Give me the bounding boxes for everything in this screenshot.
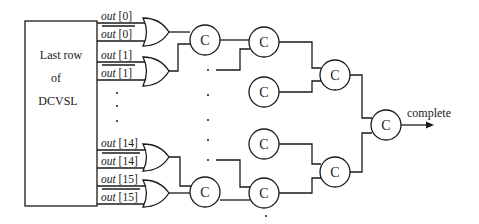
svg-text:C: C <box>200 185 209 200</box>
level3-wires <box>279 42 321 193</box>
block-label-line-2: of <box>51 71 61 85</box>
or-gate-1 <box>143 57 169 86</box>
signal-out14: out [14] <box>101 137 138 149</box>
c-element-l2-2: C <box>249 129 279 159</box>
c-element-l2-0: C <box>249 27 279 57</box>
signal-labels: out [0] out [0] out [1] out [1] out [14]… <box>101 10 140 203</box>
c-element-l2-3: C <box>249 178 279 208</box>
level1-wires <box>169 32 191 193</box>
signal-out15-bar: out [15] <box>101 191 138 203</box>
or-gate-14 <box>143 144 169 171</box>
ellipsis-dots-level1 <box>207 69 209 161</box>
svg-text:C: C <box>259 137 268 152</box>
c-element-l2-1: C <box>249 77 279 107</box>
svg-text:C: C <box>259 35 268 50</box>
completion-detection-diagram: Last row of DCVSL out [0] out [0] out [1… <box>0 0 479 224</box>
c-element-l3-top: C <box>320 60 350 90</box>
signal-out0-bar: out [0] <box>101 28 132 40</box>
svg-text:C: C <box>200 33 209 48</box>
or-gate-0 <box>143 18 169 46</box>
svg-text:C: C <box>330 68 339 83</box>
signal-out0: out [0] <box>101 10 132 22</box>
c-element-l3-bottom: C <box>320 157 350 187</box>
c-element-final: C <box>371 110 401 140</box>
signal-out1-bar: out [1] <box>101 67 132 79</box>
c-element-l1-top: C <box>190 25 220 55</box>
svg-text:C: C <box>381 118 390 133</box>
signal-out1: out [1] <box>101 49 132 61</box>
complete-output-arrow <box>401 122 434 129</box>
complete-label: complete <box>407 106 451 120</box>
block-label-line-3: DCVSL <box>38 94 77 108</box>
c-element-l1-bottom: C <box>190 177 220 207</box>
ellipsis-dots-inputs <box>116 92 118 122</box>
final-wires <box>350 75 372 172</box>
svg-text:C: C <box>330 165 339 180</box>
ellipsis-dot-bottom <box>265 215 267 217</box>
signal-out15: out [15] <box>101 173 138 185</box>
level2-wires <box>216 40 250 200</box>
block-label-line-1: Last row <box>40 48 83 62</box>
or-gate-15 <box>143 180 169 207</box>
svg-text:C: C <box>259 186 268 201</box>
arrowhead-icon <box>426 122 434 129</box>
svg-text:C: C <box>259 85 268 100</box>
signal-out14-bar: out [14] <box>101 155 138 167</box>
dcvsl-block: Last row of DCVSL <box>25 21 97 206</box>
